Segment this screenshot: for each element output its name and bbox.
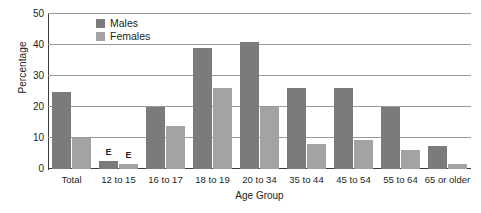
x-axis-title: Age Group [48,190,471,201]
bar-annotation: E [105,148,111,157]
x-tick-label: 12 to 15 [95,174,142,185]
bar-males [428,146,447,169]
bar-group [424,14,471,169]
bar-group [236,14,283,169]
bar-males [287,88,306,169]
y-tick-label: 30 [4,71,44,81]
y-tick-label: 50 [4,9,44,19]
y-tick-label: 20 [4,102,44,112]
legend-swatch-females [96,32,105,41]
bar-group [189,14,236,169]
legend-item: Males [96,17,150,30]
x-tick-label: 16 to 17 [142,174,189,185]
legend: MalesFemales [92,15,154,45]
legend-swatch-males [96,19,105,28]
bar-females [260,107,279,169]
bar-females [401,150,420,169]
x-tick-label: 20 to 34 [236,174,283,185]
bar-chart: Percentage 01020304050 EE Total12 to 151… [0,0,481,213]
bar-group [377,14,424,169]
legend-item: Females [96,30,150,43]
bar-group [330,14,377,169]
x-tick-label: 45 to 54 [330,174,377,185]
x-tick-label: 35 to 44 [283,174,330,185]
bar-annotation: E [125,151,131,160]
bar-group [48,14,95,169]
bar-males [146,107,165,169]
bar-females [166,126,185,169]
bar-females [448,164,467,169]
bar-females [72,138,91,169]
legend-label: Females [110,31,150,42]
y-tick-label: 40 [4,40,44,50]
x-tick-label: Total [48,174,95,185]
bar-females [213,88,232,169]
bar-males [193,48,212,169]
legend-label: Males [110,18,138,29]
x-tick-label: 65 or older [424,174,471,185]
bar-males [381,107,400,169]
y-axis-tick-labels: 01020304050 [0,14,44,169]
bar-females [354,140,373,169]
bar-males: E [99,161,118,169]
bar-group [283,14,330,169]
x-tick-label: 18 to 19 [189,174,236,185]
x-axis-tick-labels: Total12 to 1516 to 1718 to 1920 to 3435 … [48,174,471,185]
y-tick-label: 10 [4,133,44,143]
bar-males [334,88,353,169]
bar-females: E [119,164,138,169]
y-tick-label: 0 [4,164,44,174]
bar-females [307,144,326,169]
bar-males [240,42,259,169]
bar-males [52,92,71,170]
x-tick-label: 55 to 64 [377,174,424,185]
